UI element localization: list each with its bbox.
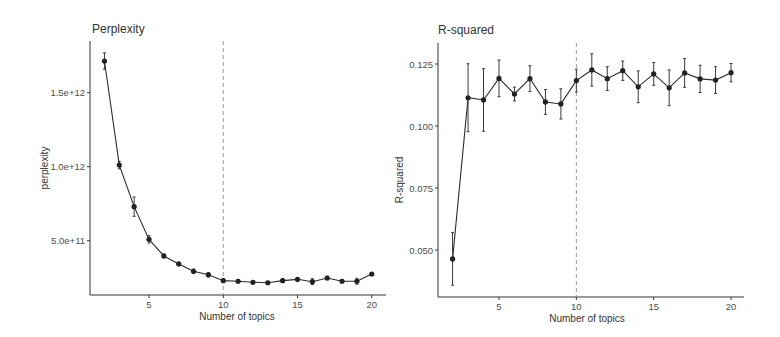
data-point [221, 278, 226, 283]
data-point [236, 279, 241, 284]
data-point [265, 280, 270, 285]
data-point [667, 85, 672, 90]
x-tick-label: 15 [292, 299, 303, 310]
perplexity-chart: Perplexity perplexity Number of topics 5… [0, 0, 390, 337]
y-tick-label: 1.5e+12 [50, 87, 85, 98]
data-point [512, 91, 517, 96]
data-point [481, 97, 486, 102]
y-tick-label: 1.0e+12 [50, 161, 85, 172]
data-point [465, 95, 470, 100]
y-axis-label: perplexity [39, 147, 50, 190]
data-point [280, 278, 285, 283]
data-point [636, 84, 641, 89]
data-point [527, 76, 532, 81]
chart-title: Perplexity [92, 22, 145, 36]
data-point [543, 99, 548, 104]
series-line [104, 61, 371, 283]
data-point [354, 279, 359, 284]
series-line [453, 70, 731, 259]
data-point [605, 76, 610, 81]
data-point [698, 76, 703, 81]
data-point [310, 279, 315, 284]
data-point [161, 253, 166, 258]
data-point [250, 280, 255, 285]
data-point [295, 277, 300, 282]
chart-title: R-squared [438, 23, 494, 37]
data-point [496, 76, 501, 81]
data-point [339, 279, 344, 284]
perplexity-panel: Perplexity perplexity Number of topics 5… [0, 0, 390, 337]
y-axis-label: R-squared [394, 157, 405, 204]
x-tick-label: 10 [218, 299, 229, 310]
data-point [558, 101, 563, 106]
y-tick-label: 0.100 [409, 121, 433, 132]
x-tick-label: 10 [571, 301, 582, 312]
x-axis-label: Number of topics [549, 313, 625, 324]
data-point [369, 271, 374, 276]
axes: 5.0e+111.0e+121.5e+125101520 [50, 41, 386, 310]
data-point [682, 70, 687, 75]
y-tick-label: 0.075 [409, 183, 433, 194]
data-point [574, 78, 579, 83]
r-squared-chart: R-squared R-squared Number of topics 0.0… [390, 0, 780, 337]
data-point [132, 204, 137, 209]
x-tick-label: 20 [366, 299, 377, 310]
data-point [176, 261, 181, 266]
x-tick-label: 5 [496, 301, 501, 312]
data-point [651, 71, 656, 76]
data-point [206, 272, 211, 277]
data-point [589, 67, 594, 72]
data-point [713, 78, 718, 83]
data-point [325, 275, 330, 280]
data-point [191, 269, 196, 274]
data-point [450, 256, 455, 261]
data-point [146, 237, 151, 242]
y-tick-label: 5.0e+11 [51, 235, 85, 246]
plot-area [102, 41, 375, 295]
y-tick-label: 0.125 [409, 59, 433, 70]
r-squared-panel: R-squared R-squared Number of topics 0.0… [390, 0, 780, 337]
y-tick-label: 0.050 [409, 245, 433, 256]
x-tick-label: 5 [146, 299, 151, 310]
data-point [620, 68, 625, 73]
x-axis-label: Number of topics [199, 311, 275, 322]
data-point [117, 162, 122, 167]
x-tick-label: 15 [648, 301, 659, 312]
x-tick-label: 20 [726, 301, 737, 312]
plot-area [450, 43, 734, 297]
data-point [102, 58, 107, 63]
data-point [728, 70, 733, 75]
